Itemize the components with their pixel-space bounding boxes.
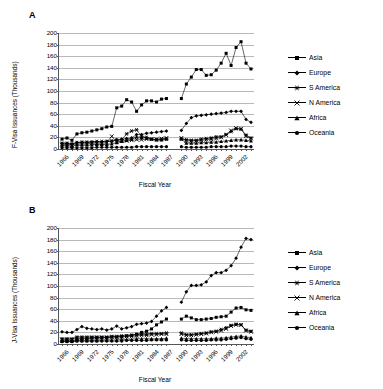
- x-tick-mark: [166, 344, 167, 346]
- x-tick-mark: [186, 149, 187, 151]
- x-tick-mark: [251, 149, 252, 151]
- legend-item-oceania[interactable]: Oceania: [288, 125, 340, 140]
- panel-b: B J-Visa Issuances (Thousands) 020406080…: [0, 195, 383, 389]
- legend-item-oceania[interactable]: Oceania: [288, 320, 340, 335]
- x-tick-mark: [157, 149, 158, 151]
- x-tick-mark: [137, 344, 138, 346]
- x-tick-mark: [231, 344, 232, 346]
- x-tick-mark: [142, 149, 143, 151]
- legend-item-africa[interactable]: Africa: [288, 110, 340, 125]
- x-tick-mark: [201, 344, 202, 346]
- legend-label: N America: [309, 99, 340, 106]
- x-tick-mark: [226, 149, 227, 151]
- x-tick-mark: [196, 149, 197, 151]
- legend-marker-circle-icon: [288, 323, 306, 333]
- x-tick-mark: [191, 344, 192, 346]
- legend-label: Asia: [309, 249, 322, 256]
- series-layer: [59, 33, 254, 149]
- legend-item-asia[interactable]: Asia: [288, 50, 340, 65]
- x-tick-mark: [87, 344, 88, 346]
- panel-a: A F-Visa Issuances (Thousands) 020406080…: [0, 0, 383, 194]
- x-tick-mark: [137, 149, 138, 151]
- panel-b-y-axis-label: J-Visa Issuances (Thousands): [11, 257, 18, 343]
- panel-b-legend: AsiaEuropeS AmericaN AmericaAfricaOceani…: [288, 245, 340, 335]
- legend-marker-star-icon: [288, 83, 306, 93]
- x-tick-mark: [201, 149, 202, 151]
- x-tick-mark: [132, 344, 133, 346]
- x-tick-mark: [211, 149, 212, 151]
- legend-item-n-america[interactable]: N America: [288, 95, 340, 110]
- x-tick-mark: [196, 344, 197, 346]
- legend-label: Africa: [309, 309, 326, 316]
- panel-a-legend: AsiaEuropeS AmericaN AmericaAfricaOceani…: [288, 50, 340, 140]
- x-tick-mark: [241, 149, 242, 151]
- y-tick-label: 200: [37, 225, 57, 231]
- x-tick-mark: [221, 344, 222, 346]
- legend-label: Oceania: [309, 129, 334, 136]
- x-tick-mark: [236, 344, 237, 346]
- y-tick-label: 60: [37, 306, 57, 312]
- y-tick-label: 200: [37, 30, 57, 36]
- y-tick-label: 180: [37, 42, 57, 48]
- x-tick-mark: [161, 149, 162, 151]
- legend-marker-triangle-icon: [288, 113, 306, 123]
- y-tick-label: 120: [37, 271, 57, 277]
- visa-issuance-figure: A F-Visa Issuances (Thousands) 020406080…: [0, 0, 383, 389]
- x-tick-mark: [107, 344, 108, 346]
- x-tick-mark: [241, 344, 242, 346]
- x-tick-mark: [107, 149, 108, 151]
- legend-marker-square-icon: [288, 53, 306, 63]
- legend-item-s-america[interactable]: S America: [288, 80, 340, 95]
- x-tick-mark: [147, 149, 148, 151]
- x-tick-mark: [117, 344, 118, 346]
- legend-item-europe[interactable]: Europe: [288, 260, 340, 275]
- panel-a-y-axis-label: F-Visa Issuances (Thousands): [11, 61, 18, 148]
- legend-marker-triangle-icon: [288, 308, 306, 318]
- x-tick-mark: [181, 149, 182, 151]
- legend-item-n-america[interactable]: N America: [288, 290, 340, 305]
- series-layer: [59, 228, 254, 344]
- y-tick-label: 100: [37, 283, 57, 289]
- y-tick-label: 140: [37, 260, 57, 266]
- legend-label: N America: [309, 294, 340, 301]
- x-tick-mark: [97, 149, 98, 151]
- series-asia: [61, 40, 253, 142]
- y-tick-label: 80: [37, 100, 57, 106]
- x-tick-mark: [147, 344, 148, 346]
- x-tick-mark: [112, 149, 113, 151]
- legend-marker-cross-icon: [288, 293, 306, 303]
- x-tick-mark: [211, 344, 212, 346]
- x-tick-mark: [157, 344, 158, 346]
- legend-marker-square-icon: [288, 248, 306, 258]
- legend-label: Oceania: [309, 324, 334, 331]
- x-tick-mark: [216, 149, 217, 151]
- x-tick-mark: [67, 344, 68, 346]
- legend-marker-diamond-icon: [288, 263, 306, 273]
- x-tick-mark: [77, 344, 78, 346]
- legend-item-s-america[interactable]: S America: [288, 275, 340, 290]
- legend-label: Asia: [309, 54, 322, 61]
- x-tick-mark: [122, 149, 123, 151]
- y-tick-label: 40: [37, 318, 57, 324]
- x-tick-mark: [181, 344, 182, 346]
- y-tick-label: 80: [37, 295, 57, 301]
- legend-item-africa[interactable]: Africa: [288, 305, 340, 320]
- x-tick-mark: [92, 344, 93, 346]
- panel-b-letter: B: [29, 205, 36, 215]
- x-tick-mark: [122, 344, 123, 346]
- x-tick-mark: [206, 344, 207, 346]
- x-tick-mark: [142, 344, 143, 346]
- legend-item-europe[interactable]: Europe: [288, 65, 340, 80]
- x-tick-mark: [97, 344, 98, 346]
- x-tick-mark: [206, 149, 207, 151]
- x-tick-mark: [102, 344, 103, 346]
- x-tick-mark: [127, 344, 128, 346]
- y-tick-label: 160: [37, 53, 57, 59]
- legend-marker-star-icon: [288, 278, 306, 288]
- panel-a-letter: A: [29, 10, 36, 20]
- x-tick-mark: [72, 344, 73, 346]
- y-tick-mark: [57, 344, 59, 345]
- x-tick-mark: [127, 149, 128, 151]
- legend-label: Europe: [309, 69, 331, 76]
- legend-item-asia[interactable]: Asia: [288, 245, 340, 260]
